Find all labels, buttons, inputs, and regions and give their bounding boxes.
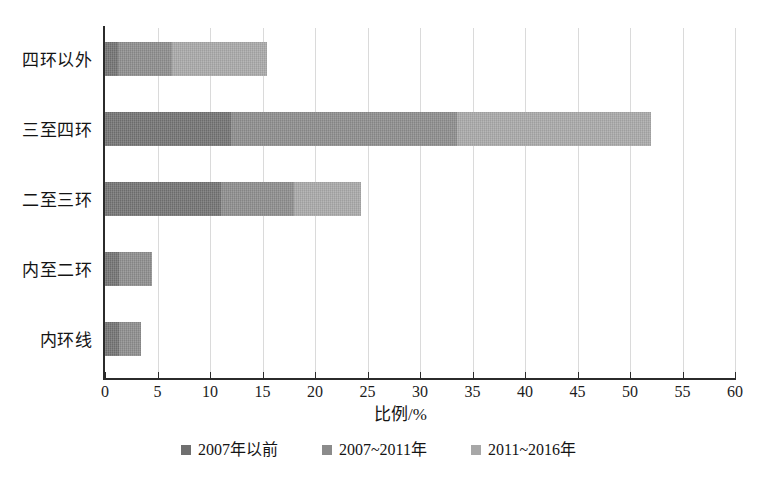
legend-label: 2007年以前 [198, 440, 278, 460]
x-axis-tick-label: 15 [243, 382, 283, 402]
x-axis-tick-label: 55 [663, 382, 703, 402]
bar-segment-2007-2011 [221, 182, 295, 216]
x-axis-title: 比例/% [0, 404, 757, 426]
x-axis-tick [263, 372, 264, 379]
y-axis-category-labels: 四环以外 三至四环 二至三环 内至二环 内环线 [0, 28, 96, 378]
bar-segment-2007-2011 [119, 252, 153, 286]
x-axis-tick [683, 372, 684, 379]
x-axis-tick-label: 60 [715, 382, 755, 402]
x-axis-tick [735, 372, 736, 379]
bar-er-zhi-san-huan [105, 182, 361, 216]
bar-row [105, 168, 735, 238]
x-axis-tick [473, 372, 474, 379]
bar-segment-2007-before [105, 252, 119, 286]
stacked-bar-chart: 0 5 10 15 20 25 30 35 40 45 50 55 60 四环以… [0, 0, 757, 478]
x-axis-tick [525, 372, 526, 379]
bar-segment-2007-2011 [231, 112, 457, 146]
x-axis-tick-label: 30 [400, 382, 440, 402]
x-axis-tick [578, 372, 579, 379]
bar-san-zhi-si-huan [105, 112, 651, 146]
gridline [735, 28, 736, 378]
legend-swatch-icon [322, 445, 332, 455]
bar-nei-huan-xian [105, 322, 141, 356]
bar-segment-2007-before [105, 322, 119, 356]
x-axis-tick [315, 372, 316, 379]
x-axis-tick [105, 372, 106, 379]
chart-legend: 2007年以前 2007~2011年 2011~2016年 [0, 440, 757, 460]
legend-swatch-icon [181, 445, 191, 455]
bar-row [105, 238, 735, 308]
bar-segment-2011-2016 [294, 182, 361, 216]
x-axis-title-text: 比例/% [330, 404, 427, 426]
legend-item-2007-before[interactable]: 2007年以前 [181, 440, 278, 460]
bar-row [105, 308, 735, 378]
y-axis-label-er-zhi-san-huan: 二至三环 [22, 190, 92, 212]
x-axis-tick-label: 40 [505, 382, 545, 402]
x-axis-tick-label: 20 [295, 382, 335, 402]
x-axis-tick-label: 0 [85, 382, 125, 402]
x-axis-tick [158, 372, 159, 379]
bar-nei-zhi-er-huan [105, 252, 152, 286]
bar-segment-2007-before [105, 42, 118, 76]
x-axis-tick-label: 10 [190, 382, 230, 402]
bar-segment-2011-2016 [172, 42, 267, 76]
legend-swatch-icon [471, 445, 481, 455]
legend-item-2011-2016[interactable]: 2011~2016年 [471, 440, 576, 460]
bar-segment-2007-before [105, 182, 221, 216]
x-axis-tick-label: 45 [558, 382, 598, 402]
bar-segment-2007-2011 [118, 42, 173, 76]
bar-segment-2011-2016 [457, 112, 651, 146]
y-axis-label-nei-huan-xian: 内环线 [40, 330, 93, 352]
plot-area [105, 28, 735, 378]
bar-segment-2007-before [105, 112, 231, 146]
y-axis-line [103, 26, 105, 380]
x-axis-tick-label: 35 [453, 382, 493, 402]
legend-label: 2011~2016年 [488, 440, 576, 460]
y-axis-label-si-huan-yi-wai: 四环以外 [22, 50, 92, 72]
x-axis-tick [368, 372, 369, 379]
legend-item-2007-2011[interactable]: 2007~2011年 [322, 440, 427, 460]
bar-row [105, 98, 735, 168]
x-axis-tick [210, 372, 211, 379]
legend-label: 2007~2011年 [339, 440, 427, 460]
x-axis-tick-label: 25 [348, 382, 388, 402]
y-axis-label-san-zhi-si-huan: 三至四环 [22, 120, 92, 142]
x-axis-tick-label: 5 [138, 382, 178, 402]
x-axis-tick-label: 50 [610, 382, 650, 402]
x-axis-tick [630, 372, 631, 379]
bar-segment-2007-2011 [119, 322, 141, 356]
y-axis-label-nei-zhi-er-huan: 内至二环 [22, 260, 92, 282]
bar-si-huan-yi-wai [105, 42, 267, 76]
x-axis-tick [420, 372, 421, 379]
bar-row [105, 28, 735, 98]
